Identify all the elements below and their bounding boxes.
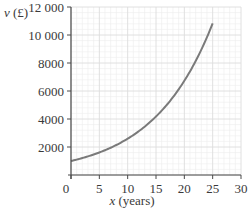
x-axis-unit: (years) bbox=[115, 193, 154, 208]
major-grid bbox=[71, 7, 241, 175]
y-ticks: 200040006000800010 00012 000 bbox=[28, 0, 71, 155]
x-tick-label: 20 bbox=[178, 181, 191, 196]
x-tick-label: 30 bbox=[235, 181, 248, 196]
y-axis-title: v (£) bbox=[4, 5, 28, 20]
y-tick-label: 10 000 bbox=[28, 28, 64, 43]
line-chart: 200040006000800010 00012 000 05101520253… bbox=[0, 0, 251, 211]
y-tick-label: 12 000 bbox=[28, 0, 64, 15]
y-tick-label: 4000 bbox=[38, 112, 64, 127]
x-tick-label: 5 bbox=[96, 181, 103, 196]
x-ticks: 051015202530 bbox=[63, 175, 248, 196]
y-axis-unit: (£) bbox=[10, 5, 28, 20]
x-axis-title: x (years) bbox=[108, 193, 154, 208]
y-tick-label: 6000 bbox=[38, 84, 64, 99]
x-tick-label: 25 bbox=[206, 181, 219, 196]
value-curve bbox=[71, 23, 213, 161]
y-tick-label: 2000 bbox=[38, 140, 64, 155]
y-tick-label: 8000 bbox=[38, 56, 64, 71]
x-tick-label: 0 bbox=[63, 181, 70, 196]
